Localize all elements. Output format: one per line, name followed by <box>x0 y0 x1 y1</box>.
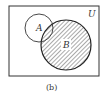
universe-label: U <box>88 9 96 19</box>
venn-diagram: A B U (b) <box>0 0 106 94</box>
set-a-label: A <box>35 23 43 33</box>
caption: (b) <box>46 83 57 92</box>
set-b-label: B <box>62 40 70 50</box>
